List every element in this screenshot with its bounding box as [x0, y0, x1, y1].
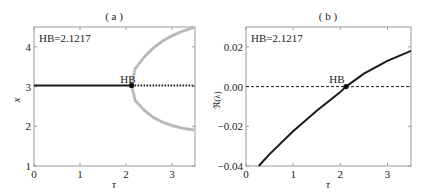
panel-b: ( b ) 0123 −0.04−0.020.000.02 τ ℜ(λ) HB=…	[212, 10, 411, 190]
x-tick-label: 3	[169, 168, 175, 180]
x-tick-label: 0	[31, 168, 37, 180]
bifurcation-dot	[191, 128, 194, 131]
x-tick-label: 0	[243, 168, 249, 180]
panel-a-x-ticks: 0123	[31, 27, 175, 180]
panel-b-series	[246, 51, 411, 166]
y-tick-label: −0.04	[218, 160, 244, 172]
panel-b-hb-annotation: HB=2.1217	[251, 32, 303, 44]
panel-b-axes-frame	[246, 27, 411, 166]
y-tick-label: 2	[26, 120, 32, 132]
figure: ( a ) 0123 1234 τ x HB=2.1217 HB ( b ) 0…	[0, 0, 429, 196]
bifurcation-dot	[191, 26, 194, 29]
y-tick-label: 4	[26, 41, 32, 53]
panel-a-axes-frame	[34, 27, 195, 166]
panel-b-xlabel: τ	[326, 178, 331, 190]
panel-b-ylabel: ℜ(λ)	[212, 91, 222, 108]
panel-a-y-ticks: 1234	[26, 41, 196, 172]
panel-a-ylabel: x	[10, 97, 22, 103]
panel-b-title: ( b )	[319, 10, 338, 23]
y-tick-label: 0.00	[224, 81, 244, 93]
y-tick-label: 0.02	[224, 41, 243, 53]
panel-a-title: ( a )	[105, 10, 123, 23]
y-tick-label: 1	[26, 160, 32, 172]
series-line	[259, 51, 411, 166]
x-tick-label: 1	[290, 168, 296, 180]
panel-a-hb-label: HB	[120, 73, 135, 85]
x-tick-label: 3	[385, 168, 391, 180]
panel-a: ( a ) 0123 1234 τ x HB=2.1217 HB	[10, 10, 195, 190]
panel-a-xlabel: τ	[112, 178, 117, 190]
x-tick-label: 2	[338, 168, 344, 180]
panel-b-x-ticks: 0123	[243, 27, 390, 180]
y-tick-label: −0.02	[218, 120, 243, 132]
x-tick-label: 2	[123, 168, 129, 180]
y-tick-label: 3	[26, 81, 32, 93]
panel-b-hb-label: HB	[329, 73, 344, 85]
panel-a-hb-annotation: HB=2.1217	[39, 32, 91, 44]
x-tick-label: 1	[77, 168, 83, 180]
panel-b-y-ticks: −0.04−0.020.000.02	[218, 41, 411, 172]
